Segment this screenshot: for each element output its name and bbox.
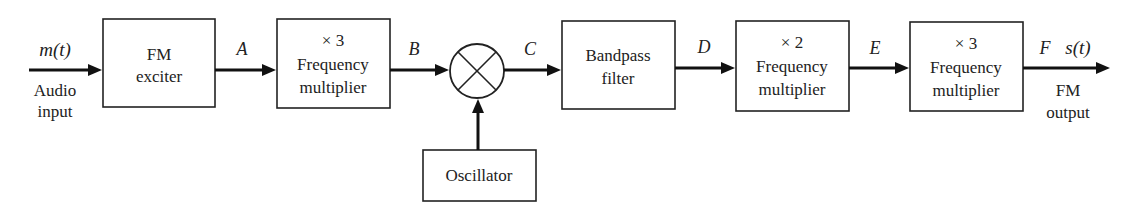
multiplier-x3-block-1: × 3 Frequency multiplier [277,19,390,108]
mult2-line2: multiplier [758,80,825,99]
node-e-label: E [869,38,881,58]
fm-transmitter-diagram: m(t) Audio input FM exciter A × 3 Freque… [0,0,1146,207]
multiplier-x3-block-2: × 3 Frequency multiplier [910,22,1023,111]
mult3-line2: multiplier [932,81,999,100]
arrow-b [390,64,449,76]
bandpass-filter-block: Bandpass filter [562,21,675,109]
input-arrow [29,64,102,76]
oscillator-block: Oscillator [423,150,536,201]
mult2-factor: × 2 [781,33,803,52]
mult1-line1: Frequency [297,55,369,74]
input-caption-line2: input [38,102,73,121]
fm-exciter-line1: FM [147,45,172,64]
node-b-label: B [409,39,420,59]
mult3-line1: Frequency [930,58,1002,77]
mult2-line1: Frequency [756,57,828,76]
output-arrow [1023,62,1110,74]
multiplier-x2-block: × 2 Frequency multiplier [736,21,849,111]
input-caption-line1: Audio [34,81,77,100]
input-signal-label: m(t) [39,39,71,61]
oscillator-label: Oscillator [445,166,512,185]
fm-exciter-block: FM exciter [103,19,215,107]
arrow-c [504,64,561,76]
oscillator-to-mixer-arrow [472,99,484,150]
arrow-d [675,62,735,74]
node-f-label: F [1039,38,1052,58]
mult1-line2: multiplier [299,78,366,97]
mult1-factor: × 3 [322,31,344,50]
node-a-label: A [236,39,249,59]
node-d-label: D [697,37,711,57]
mult3-factor: × 3 [955,34,977,53]
bandpass-line1: Bandpass [585,46,650,65]
output-signal-label: s(t) [1065,37,1090,59]
mixer-icon [450,44,504,98]
output-caption-line2: output [1046,103,1090,122]
output-caption-line1: FM [1056,81,1081,100]
node-c-label: C [524,39,537,59]
bandpass-line2: filter [601,69,634,88]
arrow-e [849,62,909,74]
arrow-a [215,64,276,76]
fm-exciter-line2: exciter [136,67,183,86]
